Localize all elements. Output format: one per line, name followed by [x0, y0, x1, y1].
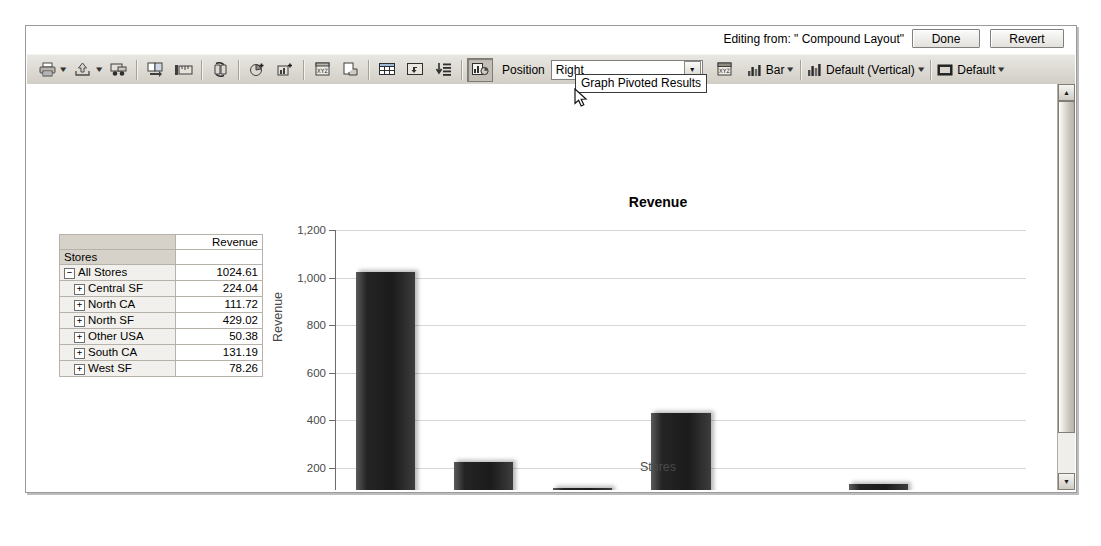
toolbar-divider — [201, 60, 202, 80]
pivot-row-value: 429.02 — [176, 313, 263, 329]
copy-page-icon[interactable] — [337, 58, 363, 82]
expander-icon[interactable]: + — [74, 316, 85, 327]
bar-chart-icon — [747, 63, 762, 77]
pivot-row-value: 78.26 — [176, 361, 263, 377]
pivot-header-row: Revenue — [60, 235, 263, 250]
table-grid-icon[interactable] — [374, 58, 400, 82]
scrollbar-track[interactable] — [1058, 101, 1075, 473]
style-swatch-icon — [937, 63, 953, 77]
pivot-table: RevenueStores −All Stores1024.61+Central… — [59, 234, 263, 377]
svg-text:XYZ: XYZ — [317, 67, 328, 74]
pivot-row-value: 224.04 — [176, 281, 263, 297]
print-icon[interactable] — [34, 58, 60, 82]
graph-type-dropdown[interactable]: Bar ▾ — [747, 63, 796, 77]
y-axis-tick-label: 1,200 — [297, 224, 326, 236]
toolbar-divider — [800, 60, 801, 80]
expander-icon[interactable]: + — [74, 364, 85, 375]
pivot-table-icon[interactable] — [402, 58, 428, 82]
triangle-down-icon: ▼ — [1063, 478, 1070, 485]
pivot-row-label[interactable]: +West SF — [60, 361, 176, 377]
abc-table-icon[interactable]: XYZ — [309, 58, 335, 82]
table-row: +North CA111.72 — [60, 297, 263, 313]
editing-bar: Editing from: " Compound Layout" Done Re… — [26, 26, 1076, 53]
bar-chart: Revenue Revenue 02004006008001,0001,200A… — [263, 146, 1053, 486]
ruler-icon[interactable] — [170, 58, 196, 82]
scroll-down-button[interactable]: ▼ — [1058, 473, 1075, 490]
gridline — [336, 278, 1026, 279]
vertical-scrollbar[interactable]: ▲ ▼ — [1057, 84, 1075, 490]
orientation-chevron-down-icon[interactable]: ▾ — [918, 65, 924, 74]
expander-icon[interactable]: + — [74, 284, 85, 295]
y-axis-tick-label: 1,000 — [297, 272, 326, 284]
pivot-corner-cell — [60, 235, 176, 250]
pivot-row-value: 50.38 — [176, 329, 263, 345]
y-axis-tick-label: 400 — [307, 414, 326, 426]
pivot-row-label-text: North CA — [88, 298, 135, 310]
y-axis-tick — [329, 373, 335, 374]
pivot-row-label-text: All Stores — [78, 266, 127, 278]
tooltip: Graph Pivoted Results — [575, 74, 707, 93]
expander-icon[interactable]: − — [64, 268, 75, 279]
y-axis-tick — [329, 278, 335, 279]
triangle-up-icon: ▲ — [1063, 89, 1070, 96]
pivot-row-value: 131.19 — [176, 345, 263, 361]
report-canvas: RevenueStores −All Stores1024.61+Central… — [27, 84, 1058, 490]
export-icon[interactable] — [70, 58, 96, 82]
scroll-up-button[interactable]: ▲ — [1058, 84, 1075, 101]
pivot-row-label[interactable]: +Other USA — [60, 329, 176, 345]
gridline — [336, 325, 1026, 326]
style-chevron-down-icon[interactable]: ▾ — [998, 65, 1004, 74]
table-row: +South CA131.19 — [60, 345, 263, 361]
style-value: Default — [957, 63, 995, 77]
graph-pivoted-results-icon[interactable] — [467, 58, 493, 82]
pivot-row-label[interactable]: +North SF — [60, 313, 176, 329]
plot-area: 02004006008001,0001,200All StoresCentral… — [335, 230, 1026, 490]
pivot-row-label-text: Central SF — [88, 282, 143, 294]
download-data-icon[interactable] — [105, 58, 131, 82]
orientation-dropdown[interactable]: Default (Vertical) ▾ — [807, 63, 926, 77]
export-chevron-down-icon[interactable]: ▾ — [96, 65, 102, 74]
table-row: −All Stores1024.61 — [60, 265, 263, 281]
pivot-row-label[interactable]: +North CA — [60, 297, 176, 313]
graph-type-chevron-down-icon[interactable]: ▾ — [788, 65, 794, 74]
chart-title: Revenue — [263, 194, 1053, 210]
pivot-row-value: 111.72 — [176, 297, 263, 313]
y-axis-tick — [329, 325, 335, 326]
pivot-row-label[interactable]: −All Stores — [60, 265, 176, 281]
pivot-row-label[interactable]: +South CA — [60, 345, 176, 361]
book-icon[interactable] — [142, 58, 168, 82]
toolbar-divider — [930, 60, 931, 80]
pivot-row-label-text: West SF — [88, 362, 132, 374]
style-dropdown[interactable]: Default ▾ — [937, 63, 1007, 77]
pivot-row-label[interactable]: +Central SF — [60, 281, 176, 297]
done-button[interactable]: Done — [912, 29, 980, 48]
svg-text:XYZ: XYZ — [719, 67, 730, 74]
report-editor-window: Editing from: " Compound Layout" Done Re… — [25, 25, 1077, 493]
gridline — [336, 230, 1026, 231]
y-axis-tick — [329, 230, 335, 231]
sort-icon[interactable] — [430, 58, 456, 82]
expander-icon[interactable]: + — [74, 332, 85, 343]
refresh-icon[interactable] — [207, 58, 233, 82]
position-label: Position — [502, 63, 545, 77]
print-chevron-down-icon[interactable]: ▾ — [60, 65, 66, 74]
scrollbar-thumb[interactable] — [1058, 101, 1075, 433]
chart-add-icon[interactable] — [272, 58, 298, 82]
expander-icon[interactable]: + — [74, 348, 85, 359]
graph-type-value: Bar — [766, 63, 785, 77]
table-row: +Other USA50.38 — [60, 329, 263, 345]
bar — [553, 488, 612, 490]
toolbar-divider — [461, 60, 462, 80]
y-axis-tick-label: 800 — [307, 319, 326, 331]
revert-button[interactable]: Revert — [990, 29, 1064, 48]
expander-icon[interactable]: + — [74, 300, 85, 311]
pie-add-icon[interactable] — [244, 58, 270, 82]
pivot-dimension-blank — [176, 250, 263, 265]
calendar-xyz-icon[interactable]: XYZ — [712, 58, 738, 82]
y-axis-title: Revenue — [271, 292, 285, 342]
bar — [651, 413, 710, 490]
y-axis-tick-label: 600 — [307, 367, 326, 379]
toolbar-divider — [303, 60, 304, 80]
bar — [849, 484, 908, 490]
bar-orientation-icon — [807, 63, 822, 77]
